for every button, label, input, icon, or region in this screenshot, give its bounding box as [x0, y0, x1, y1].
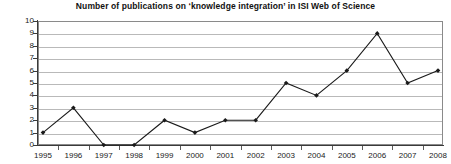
gridline — [39, 47, 442, 48]
x-axis-tick-mark — [362, 146, 363, 150]
y-axis-tick-mark — [33, 108, 37, 109]
y-axis-tick-label: 8 — [4, 42, 34, 50]
y-axis-tick-label: 10 — [4, 17, 34, 25]
x-axis-tick-mark — [332, 146, 333, 150]
y-axis-tick-mark — [33, 133, 37, 134]
gridline — [39, 109, 442, 110]
x-axis-tick-label: 2000 — [186, 151, 204, 160]
y-axis-tick-labels: 012345678910 — [0, 0, 34, 164]
x-axis-tick-mark — [180, 146, 181, 150]
y-axis-tick-mark — [33, 83, 37, 84]
x-axis-tick-label: 2002 — [247, 151, 265, 160]
plot-area — [38, 21, 443, 145]
x-axis-tick-label: 1999 — [156, 151, 174, 160]
x-axis-tick-mark — [149, 146, 150, 150]
x-axis-tick-mark — [241, 146, 242, 150]
y-axis-tick-mark — [33, 21, 37, 22]
gridline — [39, 59, 442, 60]
y-axis-line — [37, 20, 38, 146]
x-axis-tick-label: 1997 — [95, 151, 113, 160]
gridline — [39, 72, 442, 73]
y-axis-tick-label: 1 — [4, 129, 34, 137]
x-axis-tick-label: 1996 — [64, 151, 82, 160]
x-axis-tick-mark — [58, 146, 59, 150]
y-axis-tick-label: 2 — [4, 116, 34, 124]
gridline — [39, 84, 442, 85]
gridline — [39, 34, 442, 35]
x-axis-tick-mark — [210, 146, 211, 150]
chart-title: Number of publications on ‘knowledge int… — [0, 1, 451, 11]
y-axis-tick-label: 0 — [4, 141, 34, 149]
y-axis-tick-mark — [33, 46, 37, 47]
y-axis-tick-label: 9 — [4, 29, 34, 37]
y-axis-tick-label: 6 — [4, 67, 34, 75]
gridline — [39, 121, 442, 122]
y-axis-tick-mark — [33, 145, 37, 146]
x-axis-tick-label: 2003 — [277, 151, 295, 160]
x-axis-tick-mark — [423, 146, 424, 150]
x-axis-tick-label: 2008 — [429, 151, 447, 160]
x-axis-tick-mark — [271, 146, 272, 150]
y-axis-tick-mark — [33, 95, 37, 96]
publications-line-chart: Number of publications on ‘knowledge int… — [0, 0, 451, 164]
x-axis-tick-label: 2007 — [399, 151, 417, 160]
gridline — [39, 134, 442, 135]
x-axis-tick-label: 2005 — [338, 151, 356, 160]
y-axis-tick-label: 4 — [4, 91, 34, 99]
y-axis-tick-mark — [33, 71, 37, 72]
x-axis-tick-mark — [392, 146, 393, 150]
gridline — [39, 96, 442, 97]
x-axis-tick-mark — [301, 146, 302, 150]
y-axis-tick-mark — [33, 33, 37, 34]
x-axis-tick-mark — [119, 146, 120, 150]
x-axis-tick-mark — [89, 146, 90, 150]
y-axis-tick-label: 7 — [4, 54, 34, 62]
x-axis-tick-label: 2006 — [368, 151, 386, 160]
y-axis-tick-label: 5 — [4, 79, 34, 87]
y-axis-tick-mark — [33, 58, 37, 59]
y-axis-tick-label: 3 — [4, 104, 34, 112]
x-axis-tick-label: 2004 — [308, 151, 326, 160]
x-axis-tick-label: 1995 — [34, 151, 52, 160]
gridlines — [39, 22, 442, 144]
x-axis-tick-label: 1998 — [125, 151, 143, 160]
x-axis-tick-label: 2001 — [216, 151, 234, 160]
y-axis-tick-mark — [33, 120, 37, 121]
